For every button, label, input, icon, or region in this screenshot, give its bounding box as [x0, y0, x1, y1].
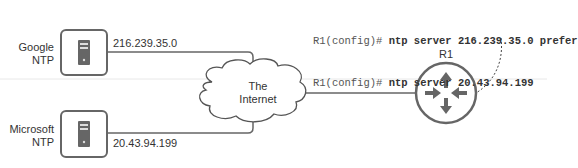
microsoft-name: Microsoft	[0, 123, 54, 136]
internet-label-line2: Internet	[228, 93, 288, 106]
cli-line: R1(config)# ntp server 216.239.35.0 pref…	[313, 34, 578, 48]
cli-line: R1(config)# ntp server 20.43.94.199	[313, 76, 578, 90]
microsoft-ip: 20.43.94.199	[113, 137, 177, 150]
cli-command: ntp server 216.239.35.0 prefer	[389, 35, 578, 47]
cli-command: ntp server 20.43.94.199	[389, 77, 534, 89]
internet-label: The Internet	[228, 80, 288, 106]
microsoft-type: NTP	[0, 136, 54, 149]
google-type: NTP	[0, 54, 54, 67]
router-label: R1	[431, 48, 461, 61]
google-ntp-label: Google NTP	[0, 41, 54, 67]
microsoft-server-icon	[61, 111, 107, 157]
microsoft-ntp-label: Microsoft NTP	[0, 123, 54, 149]
cli-prompt: R1(config)#	[313, 35, 382, 47]
internet-label-line1: The	[228, 80, 288, 93]
cli-prompt: R1(config)#	[313, 77, 382, 89]
google-ip: 216.239.35.0	[113, 37, 177, 50]
google-server-icon	[61, 30, 107, 75]
microsoft-link	[107, 122, 253, 133]
google-name: Google	[0, 41, 54, 54]
